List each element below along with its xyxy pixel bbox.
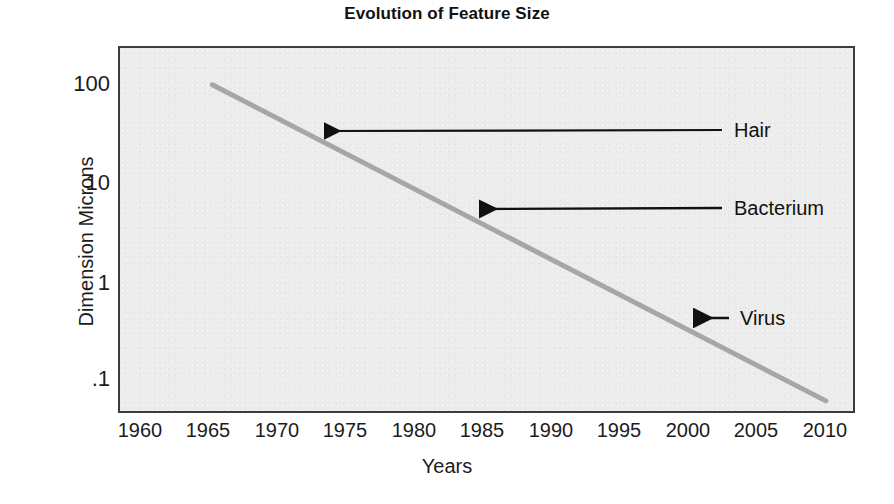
x-tick-label-1975: 1975 <box>305 419 385 442</box>
annotation-label-virus: Virus <box>740 307 785 330</box>
x-axis-title: Years <box>0 455 894 478</box>
y-axis-title: Dimension Microns <box>75 92 98 392</box>
plot-canvas <box>120 48 853 411</box>
plot-area <box>118 46 855 413</box>
x-tick-label-2005: 2005 <box>716 419 796 442</box>
x-tick-label-1985: 1985 <box>442 419 522 442</box>
annotation-label-hair: Hair <box>734 119 771 142</box>
x-tick-label-1995: 1995 <box>579 419 659 442</box>
chart-title: Evolution of Feature Size <box>0 4 894 24</box>
x-tick-label-2010: 2010 <box>785 419 865 442</box>
annotation-label-bacterium: Bacterium <box>734 197 824 220</box>
feature-size-chart: Evolution of Feature Size 100 10 1 .1 Di… <box>0 0 894 504</box>
x-tick-label-1965: 1965 <box>168 419 248 442</box>
